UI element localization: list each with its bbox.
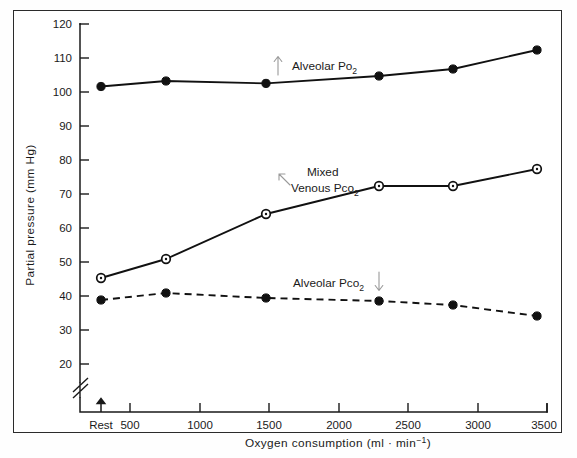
data-point [97, 274, 106, 283]
y-axis-title: Partial pressure (mm Hg) [23, 144, 37, 285]
series-label-subscript: 2 [352, 66, 357, 76]
y-tick-label: 70 [59, 188, 72, 200]
x-axis-title-exponent: −1 [416, 435, 427, 445]
data-point [533, 165, 542, 174]
x-tick-label: 3500 [531, 419, 557, 431]
rest-arrow-icon [97, 399, 105, 413]
down-arrow-icon [375, 272, 383, 291]
series-alveolar-pco2 [97, 289, 541, 320]
series-label-text: Alveolar Po [292, 59, 353, 73]
y-tick-label: 90 [59, 120, 72, 132]
series-label-alveolar-pco2: Alveolar Pco2 [293, 276, 364, 293]
x-axis-title-close: ) [427, 436, 431, 450]
y-tick-label: 80 [59, 154, 72, 166]
x-tick-label: 1500 [256, 419, 282, 431]
series-label-subscript: 2 [359, 283, 364, 293]
data-point [162, 77, 170, 85]
y-tick-label: 100 [53, 86, 72, 98]
data-point [375, 72, 383, 80]
y-tick-label: 50 [59, 256, 72, 268]
data-point [262, 79, 270, 87]
rest-tick-label: Rest [89, 419, 113, 431]
y-axis-tick-labels: 120 110 100 90 80 70 60 50 40 30 20 [53, 18, 72, 370]
series-label-text: Venous Pco [291, 181, 354, 195]
x-axis-line [80, 398, 547, 412]
data-point [162, 289, 170, 297]
x-axis-title: Oxygen consumption (ml · min−1) [245, 435, 431, 450]
data-point [533, 46, 541, 54]
annotation-mixed-venous-pco2: Mixed Venous Pco2 [279, 165, 359, 198]
x-tick-label: 3000 [465, 419, 491, 431]
up-left-arrow-icon [279, 174, 290, 185]
x-axis-title-text: Oxygen consumption (ml · min [245, 436, 416, 450]
y-tick-label: 60 [59, 222, 72, 234]
data-point [449, 301, 457, 309]
data-point [449, 182, 458, 191]
y-tick-label: 40 [59, 290, 72, 302]
x-tick-label: 2500 [395, 419, 421, 431]
series-label-text: Alveolar Pco [293, 276, 360, 290]
x-tick-label: 1000 [187, 419, 213, 431]
chart-canvas: 120 110 100 90 80 70 60 50 40 30 20 500 … [0, 0, 577, 458]
series-label-alveolar-po2: Alveolar Po2 [292, 59, 357, 76]
x-tick-label: 2000 [326, 419, 352, 431]
up-arrow-icon [274, 57, 282, 76]
series-label-subscript: 2 [354, 188, 359, 198]
x-axis-tick-labels: 500 1000 1500 2000 2500 3000 3500 [120, 419, 556, 431]
series-label-mixed-venous-line1: Mixed [307, 165, 338, 179]
series-label-mixed-venous-line2: Venous Pco2 [291, 181, 359, 198]
data-point [449, 65, 457, 73]
data-point [533, 312, 541, 320]
data-point [375, 182, 384, 191]
data-point [262, 210, 271, 219]
data-point [97, 296, 105, 304]
y-axis-ticks [80, 24, 89, 364]
x-axis-ticks [130, 403, 547, 412]
y-tick-label: 30 [59, 324, 72, 336]
figure-root: 120 110 100 90 80 70 60 50 40 30 20 500 … [0, 0, 577, 458]
data-point [97, 82, 105, 90]
y-tick-label: 120 [53, 18, 72, 30]
annotation-alveolar-pco2: Alveolar Pco2 [293, 272, 383, 293]
x-tick-label: 500 [120, 419, 139, 431]
y-tick-label: 110 [54, 52, 72, 64]
data-point [162, 255, 171, 264]
annotation-alveolar-po2: Alveolar Po2 [274, 57, 357, 76]
y-tick-label: 20 [59, 358, 72, 370]
data-point [375, 297, 383, 305]
data-point [262, 294, 270, 302]
rest-marker: Rest [89, 399, 113, 432]
